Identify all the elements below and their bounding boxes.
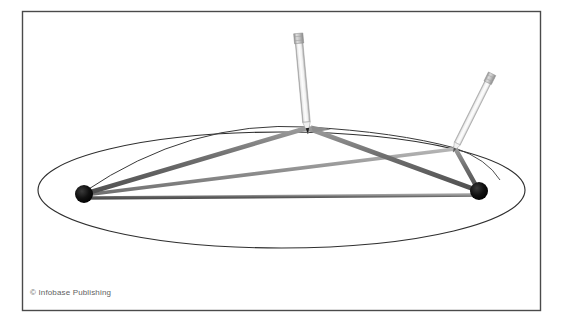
ellipse-construction-figure [0,0,561,326]
right-focus-tack [470,182,488,200]
figure-container: © Infobase Publishing [0,0,561,326]
left-focus-tack [75,185,93,203]
pencil-upright-ferrule [294,33,304,44]
copyright-credit: © Infobase Publishing [30,288,111,297]
